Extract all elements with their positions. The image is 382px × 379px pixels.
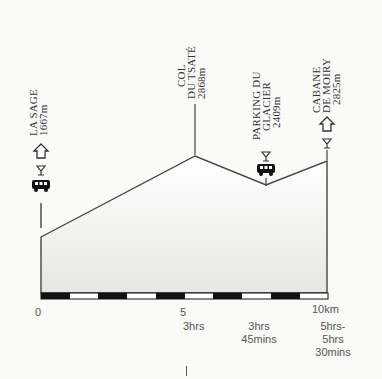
label-col-du-tsate: COL DU TSATÉ 2868m (176, 46, 206, 99)
x-tick-10: 10km (312, 303, 339, 316)
bar-icon (323, 139, 331, 148)
time-line: 30mins (311, 346, 355, 359)
label-cabane-de-moiry: CABANE DE MOIRY 2825m (311, 58, 341, 113)
time-col: 3hrs (183, 320, 204, 333)
hut-icon (320, 117, 334, 131)
distance-scale-bar (41, 293, 328, 299)
bar-icon (37, 166, 45, 175)
bus-icon (32, 180, 50, 192)
bus-icon (257, 164, 275, 176)
page-marker (186, 366, 187, 376)
bar-icon (262, 152, 270, 161)
time-line: 3hrs (237, 320, 281, 333)
time-line: 5hrs- (311, 320, 355, 333)
time-line: 5hrs (311, 333, 355, 346)
label-parking-du-glacier: PARKING DU GLACIER 2409m (251, 71, 281, 140)
profile-area (41, 156, 327, 293)
x-tick-0: 0 (35, 306, 41, 319)
time-line: 45mins (237, 333, 281, 346)
time-parking: 3hrs 45mins (237, 320, 281, 346)
label-la-sage: LA SAGE 1667m (28, 89, 48, 136)
label-line: 1667m (38, 89, 48, 136)
time-cabane: 5hrs- 5hrs 30mins (311, 320, 355, 359)
label-line: 2868m (196, 46, 206, 99)
label-line: 2825m (331, 58, 341, 113)
x-tick-5: 5 (180, 306, 186, 319)
hut-icon (34, 144, 48, 158)
label-line: 2409m (271, 71, 281, 140)
